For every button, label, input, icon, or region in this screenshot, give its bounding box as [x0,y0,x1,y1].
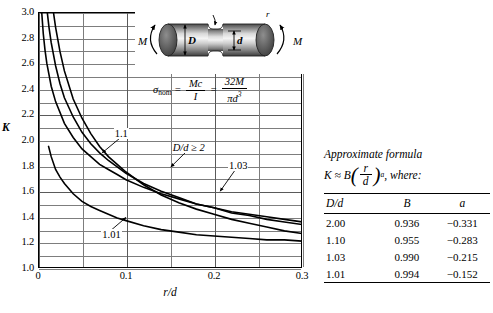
formula-close-paren: ) [374,167,381,183]
approximate-formula-panel: Approximate formula K ≈ B ( r d )a, wher… [322,148,490,308]
fraction-32m-over-pid3: 32M πd3 [222,76,247,105]
fraction-denominator-pid3: πd3 [222,89,247,105]
table-header-row: D/d B a [324,194,490,214]
table-cell-dd: 1.03 [324,248,379,265]
table-cell-dd: 1.10 [324,231,379,248]
y-tick-label: 1.8 [2,161,34,171]
x-tick-label: 0.1 [120,270,133,281]
x-axis-tick-labels: 00.10.20.3 [38,270,302,284]
table-row: 1.100.955−0.283 [324,231,490,248]
table-cell-dd: 2.00 [324,214,379,232]
y-tick-label: 2.2 [2,109,34,119]
formula-numerator-r: r [360,162,372,175]
formula-k: K [324,169,332,181]
y-tick-label: 2.0 [2,135,34,145]
formula-tail-where: , where: [384,169,421,181]
y-tick-label: 1.6 [2,186,34,196]
table-cell-a: −0.215 [435,248,490,265]
chart-area: K 1.01.21.41.61.82.02.22.42.62.83.0 1.1D… [0,0,310,313]
formula-approx-equals: ≈ [335,169,341,181]
table-cell-a: −0.283 [435,231,490,248]
y-axis-tick-labels: 1.01.21.41.61.82.02.22.42.62.83.0 [0,12,34,268]
equals-1: = [174,84,181,95]
x-tick-label: 0 [35,270,40,281]
y-tick-label: 1.2 [2,237,34,247]
table-row: 1.030.990−0.215 [324,248,490,265]
table-cell-dd: 1.01 [324,265,379,283]
table-cell-b: 0.994 [379,265,434,283]
y-tick-label: 1.0 [2,263,34,273]
formula-open-paren: ( [351,167,358,183]
table-header: D/d B a [324,194,490,214]
pi-d-exponent: 3 [238,90,242,99]
y-tick-label: 3.0 [2,7,34,17]
curve-label-1.01: 1.01 [101,229,121,240]
fraction-numerator-mc: Mc [186,78,205,91]
column-header-dd: D/d [324,194,379,214]
shaft-inset-diagram: r D d M M σnom = Mc I = 32M πd3 [135,4,310,112]
stress-concentration-chart-figure: K 1.01.21.41.61.82.02.22.42.62.83.0 1.1D… [0,0,493,313]
table-row: 1.010.994−0.152 [324,265,490,283]
formula-b: B [344,169,351,181]
table-cell-b: 0.936 [379,214,434,232]
curve-label-1.1: 1.1 [114,128,129,139]
curve-label-1.03: 1.03 [228,160,248,171]
y-tick-label: 1.4 [2,212,34,222]
curve-label-D-d---2: D/d ≥ 2 [172,142,206,153]
callout-leader-line [102,137,120,152]
coefficient-table: D/d B a 2.000.936−0.3311.100.955−0.2831.… [324,193,490,283]
svg-text:d: d [237,34,243,46]
x-tick-label: 0.2 [208,270,221,281]
pi-d-base: πd [227,93,238,104]
fraction-mc-over-i: Mc I [186,78,205,103]
approximate-formula-expression: K ≈ B ( r d )a, where: [324,162,490,187]
formula-denominator-d: d [360,175,372,187]
x-axis-title: r/d [163,286,176,298]
table-cell-a: −0.152 [435,265,490,283]
nominal-stress-formula: σnom = Mc I = 32M πd3 [153,76,313,105]
table-row: 2.000.936−0.331 [324,214,490,232]
sigma-subscript: nom [158,88,171,97]
column-header-b: B [379,194,434,214]
equals-2: = [210,84,217,95]
callout-leader-line [220,170,235,191]
column-header-a: a [435,194,490,214]
svg-text:r: r [266,9,270,19]
grooved-shaft-drawing: r D d M M [135,4,310,76]
y-tick-label: 2.8 [2,33,34,43]
svg-text:D: D [187,34,196,46]
y-tick-label: 2.6 [2,58,34,68]
fraction-numerator-32m: 32M [222,76,247,89]
svg-text:M: M [292,35,303,47]
fraction-denominator-i: I [186,91,205,103]
callout-leader-line [171,152,186,167]
x-tick-label: 0.3 [296,270,309,281]
formula-fraction-r-over-d: r d [360,162,372,187]
table-cell-a: −0.331 [435,214,490,232]
y-tick-label: 2.4 [2,84,34,94]
table-cell-b: 0.955 [379,231,434,248]
svg-text:M: M [137,35,148,47]
approximate-formula-title: Approximate formula [324,148,490,160]
table-cell-b: 0.990 [379,248,434,265]
table-body: 2.000.936−0.3311.100.955−0.2831.030.990−… [324,214,490,283]
